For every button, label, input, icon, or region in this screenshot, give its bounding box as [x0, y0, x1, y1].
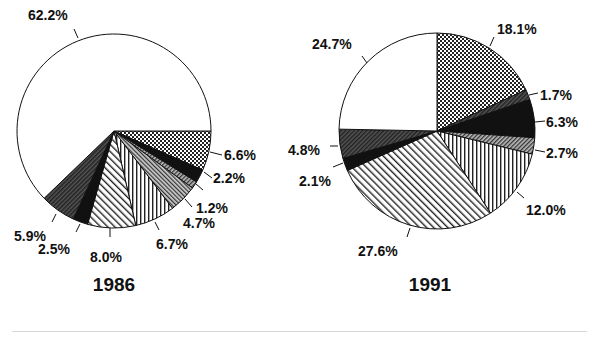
leader-line: [333, 163, 343, 167]
slice-percent-label: 6.6%: [224, 147, 256, 163]
slice-percent-label: 4.7%: [183, 215, 215, 231]
slice-percent-label: 2.2%: [213, 170, 245, 186]
leader-line: [155, 222, 159, 230]
slice-percent-label: 62.2%: [28, 7, 68, 23]
leader-line: [204, 172, 212, 178]
slice-percent-label: 12.0%: [526, 202, 566, 218]
leader-line: [196, 184, 203, 190]
slice-percent-label: 5.9%: [14, 228, 46, 244]
slice-percent-label: 1.7%: [540, 87, 572, 103]
leader-line: [74, 29, 78, 38]
pie-chart-figure: 6.6%2.2%1.2%4.7%6.7%8.0%2.5%5.9%62.2% 18…: [0, 0, 599, 344]
caption-1986: 1986: [93, 274, 135, 295]
caption-1991: 1991: [409, 274, 452, 295]
leader-line: [362, 56, 367, 63]
slice-percent-label: 18.1%: [497, 21, 537, 37]
leader-line: [535, 121, 545, 122]
slice-percent-label: 2.7%: [546, 145, 578, 161]
slice-percent-label: 24.7%: [312, 36, 352, 52]
pie-slice-white: [339, 33, 437, 131]
slice-percent-label: 27.6%: [358, 243, 398, 259]
leader-line: [185, 199, 192, 207]
leader-line: [210, 152, 222, 155]
leader-line: [490, 37, 494, 46]
leader-line: [76, 224, 80, 232]
pie-1986: 6.6%2.2%1.2%4.7%6.7%8.0%2.5%5.9%62.2%: [14, 7, 256, 265]
leader-line: [52, 214, 56, 222]
slice-percent-label: 8.0%: [90, 249, 122, 265]
pie-1991: 18.1%1.7%6.3%2.7%12.0%27.6%2.1%4.8%24.7%: [288, 21, 578, 259]
slice-percent-label: 1.2%: [196, 200, 228, 216]
slice-percent-label: 6.7%: [156, 236, 188, 252]
slice-percent-label: 2.1%: [299, 173, 331, 189]
leader-line: [529, 93, 538, 95]
leader-line: [517, 192, 524, 198]
slice-percent-label: 4.8%: [288, 142, 320, 158]
slice-percent-label: 6.3%: [546, 114, 578, 130]
leader-line: [407, 228, 410, 237]
divider-line: [12, 331, 587, 332]
leader-line: [535, 150, 545, 152]
